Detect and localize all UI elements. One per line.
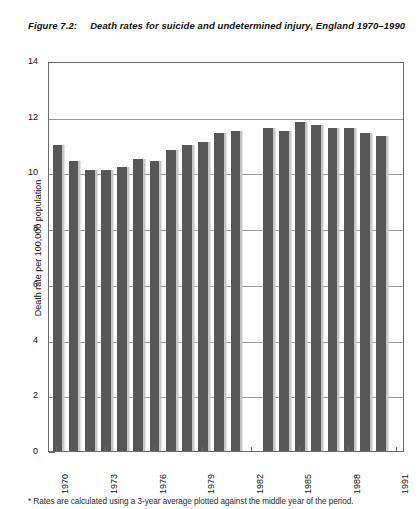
figure-number: Figure 7.2: <box>28 20 77 31</box>
bar-1979 <box>198 142 208 451</box>
bar-1989 <box>360 133 370 451</box>
x-axis-ticks: 19701973197619791982198519881991 <box>48 452 404 498</box>
bar-1976 <box>150 161 160 451</box>
bar-slot-1972 <box>85 63 95 451</box>
bar-1978 <box>182 145 192 451</box>
bar-1980 <box>214 133 224 451</box>
y-tick-label-6: 6 <box>0 279 38 289</box>
x-tick-mark-1991 <box>396 447 397 452</box>
bar-slot-1977 <box>166 63 176 451</box>
x-tick-label-1985: 1985 <box>303 474 313 494</box>
bar-slot-1981 <box>231 63 241 451</box>
bar-slot-1989 <box>360 63 370 451</box>
x-tick-label-1982: 1982 <box>255 474 265 494</box>
bar-1983 <box>263 128 273 451</box>
x-tick-label-1988: 1988 <box>352 474 362 494</box>
bar-1973 <box>101 170 111 451</box>
figure-title-text: Death rates for suicide and undetermined… <box>90 20 405 31</box>
bar-slot-1973 <box>101 63 111 451</box>
bar-1975 <box>133 159 143 452</box>
bar-1972 <box>85 170 95 451</box>
bar-1990 <box>376 136 386 451</box>
bar-1971 <box>69 161 79 451</box>
bar-1984 <box>279 131 289 451</box>
bar-series <box>49 63 403 451</box>
bar-1987 <box>328 128 338 451</box>
bar-slot-1980 <box>214 63 224 451</box>
bar-slot-1987 <box>328 63 338 451</box>
bar-1986 <box>311 125 321 451</box>
x-tick-mark-1970 <box>56 447 57 452</box>
y-tick-label-0: 0 <box>0 446 38 456</box>
bar-slot-1976 <box>150 63 160 451</box>
x-tick-label-1976: 1976 <box>158 474 168 494</box>
x-tick-mark-1973 <box>105 447 106 452</box>
bar-slot-1970 <box>53 63 63 451</box>
y-tick-label-2: 2 <box>0 390 38 400</box>
bar-slot-1986 <box>311 63 321 451</box>
bar-slot-1984 <box>279 63 289 451</box>
x-tick-label-1973: 1973 <box>109 474 119 494</box>
bar-slot-1985 <box>295 63 305 451</box>
y-tick-label-4: 4 <box>0 335 38 345</box>
bar-slot-1979 <box>198 63 208 451</box>
x-tick-mark-1979 <box>202 447 203 452</box>
x-tick-mark-1988 <box>348 447 349 452</box>
y-tick-label-14: 14 <box>0 56 38 66</box>
bar-slot-1982 <box>247 63 257 451</box>
x-tick-label-1970: 1970 <box>60 474 70 494</box>
footnote: * Rates are calculated using a 3-year av… <box>28 497 353 506</box>
y-tick-label-10: 10 <box>0 167 38 177</box>
x-tick-mark-1976 <box>154 447 155 452</box>
x-tick-label-1991: 1991 <box>400 474 410 494</box>
y-tick-label-12: 12 <box>0 112 38 122</box>
bar-1985 <box>295 122 305 451</box>
bar-slot-1988 <box>344 63 354 451</box>
bar-1981 <box>231 131 241 451</box>
x-tick-mark-1985 <box>299 447 300 452</box>
bar-slot-1983 <box>263 63 273 451</box>
bar-slot-1974 <box>117 63 127 451</box>
x-tick-mark-1982 <box>251 447 252 452</box>
bar-slot-1978 <box>182 63 192 451</box>
figure-container: Figure 7.2:Death rates for suicide and u… <box>0 0 419 509</box>
bar-1974 <box>117 167 127 451</box>
x-tick-label-1979: 1979 <box>206 474 216 494</box>
bar-slot-1971 <box>69 63 79 451</box>
bar-slot-1975 <box>133 63 143 451</box>
bar-1977 <box>166 150 176 451</box>
bar-1988 <box>344 128 354 451</box>
y-tick-label-8: 8 <box>0 223 38 233</box>
bar-slot-1990 <box>376 63 386 451</box>
plot-area <box>48 62 404 452</box>
figure-title: Figure 7.2:Death rates for suicide and u… <box>28 20 405 31</box>
bar-1970 <box>53 145 63 451</box>
